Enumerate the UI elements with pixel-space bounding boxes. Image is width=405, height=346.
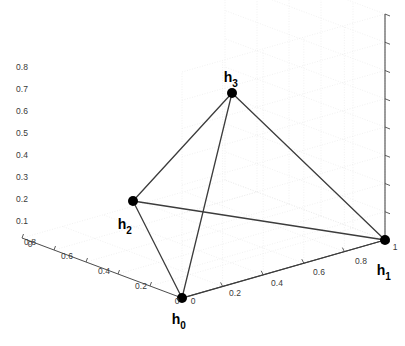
grid-line-wall-left-horizontal	[225, 39, 385, 99]
grid-line-wall-right-horizontal	[182, 184, 385, 242]
z-axis-tick	[385, 99, 390, 101]
x-axis-tick	[54, 246, 56, 250]
vertex-label-h1: h1	[377, 262, 392, 282]
grid-line-floor-y	[225, 180, 385, 240]
grid-lines	[22, 0, 385, 298]
vertex-label-subscript-h0: 0	[180, 320, 186, 331]
vertex-label-h0: h0	[172, 311, 187, 331]
grid-line-floor-x	[118, 216, 321, 274]
grid-line-wall-left-horizontal	[225, 95, 385, 155]
vertex-label-h2: h2	[118, 216, 133, 236]
tetra-edge-h0-h3	[182, 93, 232, 298]
tetrahedron-3d-plot: 0.80.70.60.50.40.30.20.100.80.60.40.2000…	[0, 0, 405, 346]
x-tick-label: 0	[175, 296, 180, 306]
z-tick-label: 0.3	[16, 172, 28, 182]
grid-line-wall-right-horizontal	[182, 127, 385, 185]
x-tick-label: 0.4	[98, 266, 110, 276]
grid-line-wall-left-horizontal	[225, 67, 385, 127]
grid-line-wall-left-horizontal	[225, 0, 385, 42]
y-tick-label: 1	[393, 242, 398, 252]
tetra-edge-h0-h1	[182, 240, 385, 298]
grid-line-floor-x	[150, 228, 353, 286]
x-axis-tick	[150, 282, 152, 286]
x-tick-label: 0.6	[61, 251, 73, 261]
grid-line-wall-right-horizontal	[182, 99, 385, 157]
z-tick-label: 0.5	[16, 128, 28, 138]
vertex-label-letter-h1: h	[377, 262, 386, 278]
grid-line-wall-left-horizontal	[225, 152, 385, 212]
z-axis-tick	[385, 184, 390, 186]
vertex-label-subscript-h1: 1	[385, 271, 391, 282]
y-tick-label: 0.8	[355, 256, 367, 266]
vertex-label-letter-h3: h	[224, 69, 233, 85]
grid-line-wall-left-horizontal	[225, 11, 385, 71]
y-tick-label: 0.4	[271, 278, 283, 288]
z-axis-tick	[385, 71, 390, 73]
x-axis-tick	[86, 258, 88, 262]
axis-tick-marks	[22, 14, 390, 286]
grid-line-floor-y	[144, 203, 304, 263]
x-tick-label: 0.2	[135, 281, 147, 291]
x-tick-label: 0.8	[24, 237, 36, 247]
vertex-labels: h0h1h2h3	[118, 69, 392, 331]
grid-line-wall-right-horizontal	[182, 14, 385, 72]
z-axis-tick	[385, 212, 390, 214]
vertex-marker-h2	[128, 196, 138, 206]
z-tick-label: 0.8	[16, 62, 28, 72]
grid-line-wall-right-horizontal	[182, 71, 385, 129]
tetra-edge-h1-h3	[232, 93, 385, 240]
z-tick-label: 0.4	[16, 150, 28, 160]
vertex-label-letter-h2: h	[118, 216, 127, 232]
grid-line-floor-x	[54, 192, 257, 250]
vertex-label-letter-h0: h	[172, 311, 181, 327]
grid-line-wall-left-horizontal	[225, 124, 385, 184]
y-tick-label: 0.6	[313, 267, 325, 277]
grid-line-wall-left-horizontal	[225, 180, 385, 240]
tetrahedron-vertices	[128, 88, 390, 303]
z-tick-label: 0.6	[16, 106, 28, 116]
z-tick-label: 0.1	[16, 216, 28, 226]
axis-tick-labels: 0.80.70.60.50.40.30.20.100.80.60.40.2000…	[16, 62, 398, 306]
grid-line-floor-y	[63, 226, 223, 286]
vertex-label-subscript-h3: 3	[232, 78, 238, 89]
grid-line-wall-right-horizontal	[182, 155, 385, 213]
grid-line-wall-right-horizontal	[182, 42, 385, 100]
vertex-label-h3: h3	[224, 69, 239, 89]
z-tick-label: 0.2	[16, 194, 28, 204]
vertex-marker-h1	[380, 235, 390, 245]
vertex-marker-h3	[227, 88, 237, 98]
vertex-label-subscript-h2: 2	[126, 225, 132, 236]
z-axis-tick	[385, 14, 390, 16]
y-tick-label: 0	[191, 296, 196, 306]
z-axis-tick	[385, 42, 390, 44]
plot-root: 0.80.70.60.50.40.30.20.100.80.60.40.2000…	[0, 0, 405, 346]
grid-line-floor-y	[103, 215, 263, 275]
tetra-edge-h1-h2	[133, 201, 385, 240]
grid-line-floor-x	[86, 204, 289, 262]
z-axis-tick	[385, 127, 390, 129]
grid-line-wall-left-horizontal	[225, 0, 385, 14]
x-axis-tick	[118, 270, 120, 274]
z-tick-label: 0.7	[16, 84, 28, 94]
z-axis-tick	[385, 155, 390, 157]
y-tick-label: 0.2	[229, 288, 241, 298]
